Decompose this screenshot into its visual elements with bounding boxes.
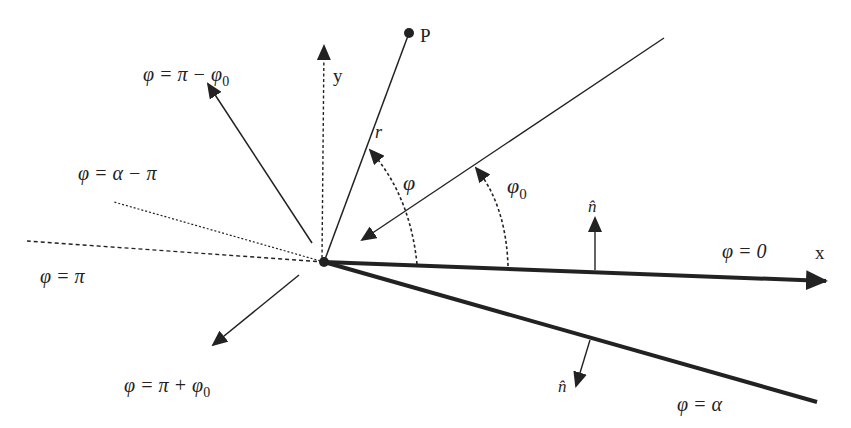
angle-phi0-label: φ0 bbox=[507, 173, 527, 202]
line-phi-pi bbox=[27, 241, 324, 262]
angle-arc-phi bbox=[370, 150, 417, 264]
angle-phi-label: φ bbox=[403, 170, 415, 195]
y-axis bbox=[322, 46, 324, 258]
label-phi-alpha-minus-pi: φ = α − π bbox=[78, 162, 158, 185]
incident-direction-arrow bbox=[362, 38, 664, 240]
point-p-label: P bbox=[420, 25, 431, 46]
y-axis-label: y bbox=[333, 65, 343, 86]
x-axis-label: x bbox=[815, 242, 825, 263]
label-phi-zero: φ = 0 bbox=[722, 240, 767, 263]
reflected-arrow-pi-minus-phi0 bbox=[208, 84, 312, 243]
normal-arrow-down bbox=[576, 340, 590, 386]
label-phi-alpha: φ = α bbox=[677, 393, 723, 416]
normal-up-label: n̂ bbox=[588, 197, 597, 216]
point-p bbox=[404, 28, 414, 38]
line-phi-alpha bbox=[324, 262, 817, 402]
normal-down-label: n̂ bbox=[558, 377, 567, 396]
origin-point bbox=[319, 257, 329, 267]
arrow-pi-plus-phi0 bbox=[213, 275, 299, 345]
wedge-diagram: P y x r φ φ0 n̂ n̂ φ = 0 φ = α φ = π φ =… bbox=[0, 0, 851, 428]
radius-label: r bbox=[375, 122, 383, 142]
label-phi-pi-minus-phi0: φ = π − φ0 bbox=[143, 63, 229, 89]
label-phi-pi-plus-phi0: φ = π + φ0 bbox=[124, 374, 210, 400]
angle-arc-phi0 bbox=[476, 168, 508, 266]
line-phi-alpha-minus-pi bbox=[114, 202, 324, 262]
x-axis-line-phi-zero bbox=[324, 262, 826, 281]
label-phi-pi: φ = π bbox=[40, 265, 86, 288]
